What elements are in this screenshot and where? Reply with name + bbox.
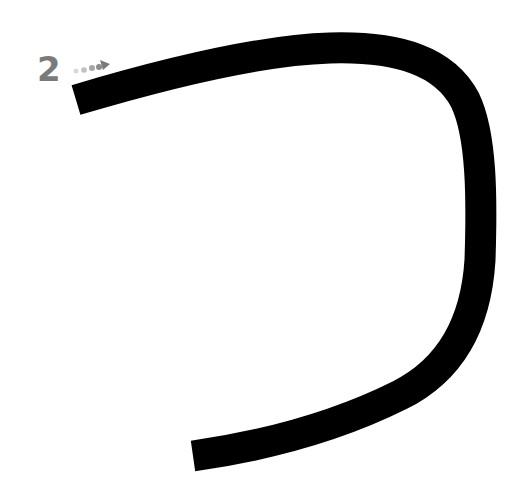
stroke-svg [0,0,526,496]
arrow-dot [96,64,102,70]
arrow-dot [74,69,79,74]
arrow-dot [89,65,95,71]
stroke-number: 2 [37,52,61,86]
stroke-diagram: 2 [0,0,526,496]
arrow-dot [81,67,87,73]
stroke-body [76,48,481,456]
direction-arrow [74,60,111,74]
